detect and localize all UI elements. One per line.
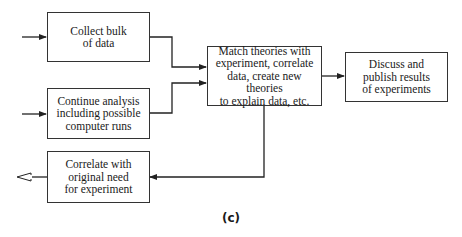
node-label: Continue analysis including possible com… xyxy=(56,95,140,133)
node-label: Correlate with original need for experim… xyxy=(64,158,132,196)
figure-caption: (c) xyxy=(222,211,240,225)
arrow-match-to-correlate xyxy=(150,105,264,177)
node-label: Collect bulk of data xyxy=(70,25,127,50)
hollow-output-arrow-icon xyxy=(17,173,47,181)
node-match-theories: Match theories with experiment, correlat… xyxy=(207,46,322,106)
arrow-continue-to-match xyxy=(149,83,206,113)
node-collect-bulk-data: Collect bulk of data xyxy=(47,12,150,62)
node-continue-analysis: Continue analysis including possible com… xyxy=(47,88,150,139)
node-discuss-publish: Discuss and publish results of experimen… xyxy=(345,52,448,102)
node-label: Discuss and publish results of experimen… xyxy=(362,58,431,96)
arrow-collect-to-match xyxy=(149,37,206,67)
node-label: Match theories with experiment, correlat… xyxy=(208,45,321,108)
node-correlate-original-need: Correlate with original need for experim… xyxy=(47,151,150,203)
